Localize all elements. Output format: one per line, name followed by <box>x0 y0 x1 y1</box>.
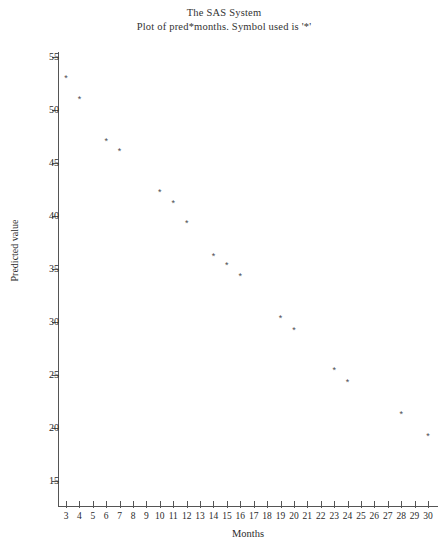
y-axis-line <box>58 52 59 507</box>
y-tick-label: 45 <box>33 157 59 168</box>
data-point: * <box>223 262 230 269</box>
y-tick: 45 <box>0 163 59 164</box>
x-tick-mark <box>173 501 174 508</box>
y-tick: 20 <box>0 428 59 429</box>
y-tick: 30 <box>0 322 59 323</box>
x-tick-mark <box>146 501 147 508</box>
y-tick: 55 <box>0 57 59 58</box>
y-tick-label: 15 <box>33 475 59 486</box>
x-tick-mark <box>267 501 268 508</box>
x-tick-mark <box>106 501 107 508</box>
data-point: * <box>156 189 163 196</box>
data-point: * <box>103 138 110 145</box>
data-point: * <box>277 315 284 322</box>
y-tick-label: 35 <box>33 263 59 274</box>
data-point: * <box>425 433 432 440</box>
x-tick-mark <box>361 501 362 508</box>
data-point: * <box>116 148 123 155</box>
y-axis-title: Predicted value <box>9 191 20 311</box>
y-tick-label: 20 <box>33 422 59 433</box>
x-tick-mark <box>348 501 349 508</box>
y-tick-label: 25 <box>33 369 59 380</box>
x-tick-mark <box>401 501 402 508</box>
data-point: * <box>344 379 351 386</box>
x-tick-mark <box>227 501 228 508</box>
x-tick-mark <box>281 501 282 508</box>
data-point: * <box>63 75 70 82</box>
x-tick-mark <box>254 501 255 508</box>
x-tick-mark <box>307 501 308 508</box>
y-tick: 25 <box>0 375 59 376</box>
x-tick-mark <box>200 501 201 508</box>
x-tick-mark <box>93 501 94 508</box>
x-axis-line <box>58 506 438 507</box>
x-tick-label: 30 <box>418 511 438 521</box>
y-tick: 50 <box>0 110 59 111</box>
x-tick-mark <box>120 501 121 508</box>
x-tick-mark <box>388 501 389 508</box>
x-tick-mark <box>187 501 188 508</box>
x-tick-mark <box>160 501 161 508</box>
data-point: * <box>183 220 190 227</box>
y-tick: 15 <box>0 481 59 482</box>
x-tick-mark <box>334 501 335 508</box>
data-point: * <box>398 411 405 418</box>
x-axis-title: Months <box>58 528 438 539</box>
data-point: * <box>290 327 297 334</box>
x-tick-mark <box>66 501 67 508</box>
data-point: * <box>237 273 244 280</box>
x-tick-mark <box>428 501 429 508</box>
y-tick-label: 50 <box>33 104 59 115</box>
y-tick-label: 30 <box>33 316 59 327</box>
chart-title-block: The SAS System Plot of pred*months. Symb… <box>0 6 448 34</box>
x-tick-mark <box>374 501 375 508</box>
x-tick-mark <box>240 501 241 508</box>
x-tick-mark <box>321 501 322 508</box>
x-tick-mark <box>415 501 416 508</box>
data-point: * <box>331 367 338 374</box>
data-point: * <box>210 253 217 260</box>
y-tick-label: 55 <box>33 51 59 62</box>
x-tick-mark <box>133 501 134 508</box>
x-tick-mark <box>79 501 80 508</box>
x-tick-mark <box>294 501 295 508</box>
chart-title-line-1: The SAS System <box>0 6 448 20</box>
data-point: * <box>76 96 83 103</box>
y-tick-label: 40 <box>33 210 59 221</box>
data-point: * <box>170 200 177 207</box>
chart-title-line-2: Plot of pred*months. Symbol used is '*' <box>0 20 448 34</box>
scatter-plot: The SAS System Plot of pred*months. Symb… <box>0 0 448 549</box>
x-tick-mark <box>213 501 214 508</box>
data-points-layer: **************** <box>0 0 448 549</box>
